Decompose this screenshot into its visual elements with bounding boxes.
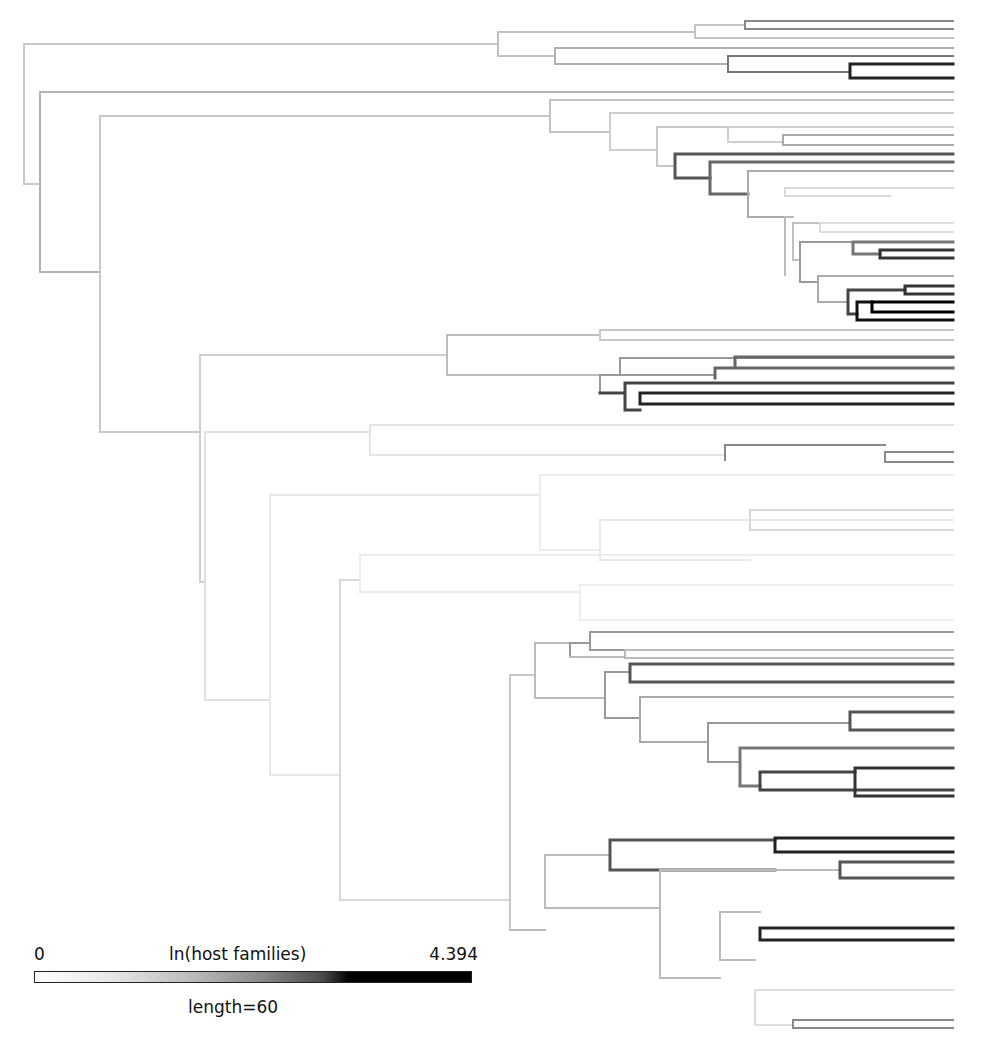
tree-branch (783, 135, 953, 145)
tree-branch (840, 862, 953, 878)
tree-branch (340, 580, 510, 900)
tree-branch (600, 358, 953, 393)
tree-branch (850, 64, 953, 78)
tree-branch (708, 723, 850, 762)
tree-branch (710, 162, 953, 194)
tree-branch (640, 697, 953, 742)
tree-branch (675, 154, 953, 178)
tree-branch (853, 242, 953, 254)
legend-min-label: 0 (34, 944, 45, 964)
tree-branch (905, 286, 953, 294)
tree-branch (793, 1020, 953, 1028)
tree-branch (785, 217, 793, 275)
tree-branch (630, 664, 953, 682)
scale-length-label: length=60 (188, 997, 278, 1017)
legend-gradient-bar (34, 971, 472, 983)
tree-branch (720, 912, 760, 960)
legend-max-label: 4.394 (429, 944, 478, 964)
tree-branch (725, 445, 953, 462)
tree-branch (785, 188, 953, 196)
tree-branch (100, 116, 550, 432)
tree-branch (657, 127, 728, 166)
tree-branch (570, 650, 953, 658)
legend-title: ln(host families) (169, 944, 306, 964)
color-legend: 0 ln(host families) 4.394 length=60 (34, 942, 474, 1022)
tree-branch (498, 32, 695, 56)
phylogenetic-tree (0, 0, 981, 1057)
tree-branch (695, 25, 953, 38)
tree-branch (605, 672, 640, 718)
tree-branch (820, 223, 953, 232)
tree-branch (370, 425, 953, 455)
tree-branch (540, 475, 953, 550)
tree-branch (872, 302, 953, 312)
tree-branch (600, 383, 953, 410)
tree-branch (40, 92, 953, 272)
tree-branch (270, 495, 540, 775)
tree-branch (205, 432, 370, 700)
tree-branch (850, 712, 953, 730)
tree-branch (660, 870, 840, 978)
tree-branch (600, 330, 953, 340)
tree-branch (760, 928, 953, 940)
tree-branch (880, 250, 953, 258)
tree-branch (510, 675, 535, 930)
tree-branch (640, 393, 953, 404)
tree-branch (748, 171, 953, 217)
tree-branch (24, 44, 498, 184)
tree-branch (570, 632, 953, 657)
tree-branch (580, 585, 953, 620)
tree-branch (715, 357, 953, 378)
tree-branch (610, 840, 775, 870)
tree-branch (447, 335, 600, 375)
tree-branch (775, 838, 953, 852)
tree-branch (510, 855, 660, 930)
tree-branch (855, 768, 953, 796)
tree-branch (200, 355, 447, 582)
tree-branch (745, 21, 953, 29)
